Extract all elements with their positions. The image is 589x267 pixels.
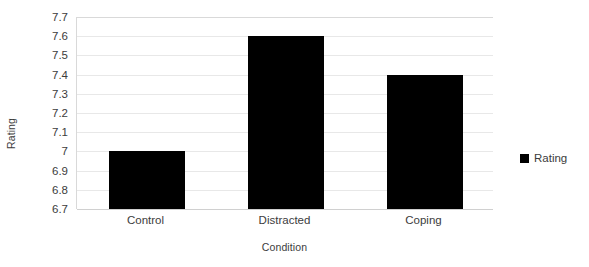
gridline bbox=[77, 209, 493, 210]
legend: Rating bbox=[520, 152, 567, 164]
y-axis-tick: 7.2 bbox=[52, 107, 68, 119]
y-axis-tick: 7.1 bbox=[52, 126, 68, 138]
y-axis-tick: 7.3 bbox=[52, 88, 68, 100]
y-axis-tick-labels: 7.77.67.57.47.37.27.176.96.86.7 bbox=[20, 0, 72, 267]
y-axis-tick: 7 bbox=[62, 145, 68, 157]
bar bbox=[109, 151, 185, 209]
y-axis-tick: 6.7 bbox=[52, 203, 68, 215]
x-axis-tick-labels: ControlDistractedCoping bbox=[76, 214, 493, 234]
y-axis-tick: 7.4 bbox=[52, 69, 68, 81]
legend-swatch-rating bbox=[520, 154, 529, 163]
bar bbox=[387, 75, 463, 209]
bar-chart: Rating 7.77.67.57.47.37.27.176.96.86.7 C… bbox=[0, 0, 589, 267]
y-axis-tick: 7.5 bbox=[52, 49, 68, 61]
y-axis-tick: 6.9 bbox=[52, 165, 68, 177]
legend-label-rating: Rating bbox=[534, 152, 567, 164]
y-axis-tick: 7.7 bbox=[52, 11, 68, 23]
bars-layer bbox=[77, 17, 493, 209]
plot-area bbox=[76, 17, 493, 209]
x-axis-tick: Control bbox=[127, 214, 164, 226]
y-axis-tick: 6.8 bbox=[52, 184, 68, 196]
y-axis-title: Rating bbox=[0, 0, 22, 267]
bar bbox=[248, 36, 324, 209]
x-axis-tick: Coping bbox=[405, 214, 441, 226]
x-axis-tick: Distracted bbox=[259, 214, 311, 226]
x-axis-title: Condition bbox=[76, 241, 493, 253]
y-axis-tick: 7.6 bbox=[52, 30, 68, 42]
